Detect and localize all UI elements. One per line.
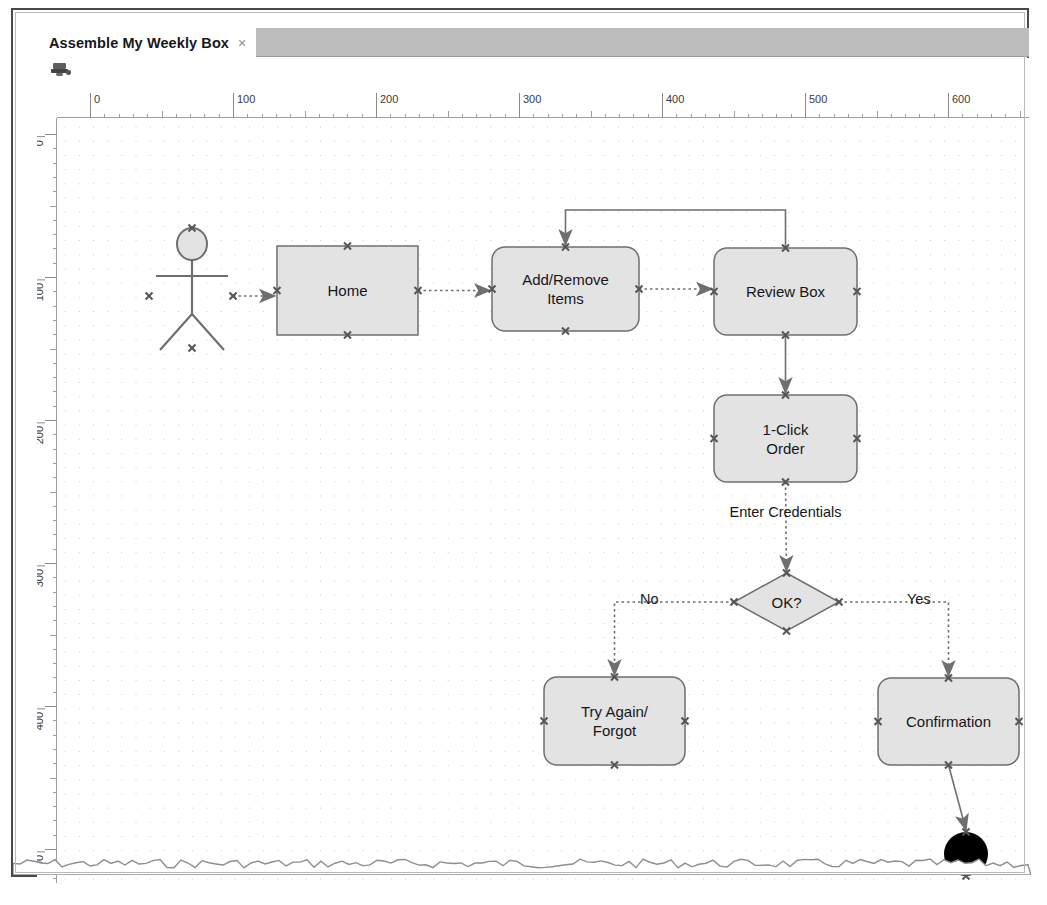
tab-strip: Assemble My Weekly Box × bbox=[37, 28, 1029, 57]
ruler-tick bbox=[50, 492, 57, 493]
ruler-label: 200 bbox=[37, 422, 45, 444]
ruler-tick bbox=[45, 420, 57, 421]
ruler-label: 300 bbox=[37, 565, 45, 587]
toolbar bbox=[37, 58, 1029, 84]
diagram-svg bbox=[57, 118, 1029, 883]
ruler-tick bbox=[591, 111, 592, 118]
diagram-node-actor[interactable] bbox=[156, 228, 228, 350]
close-icon[interactable]: × bbox=[238, 36, 246, 50]
ruler-tick bbox=[1020, 111, 1021, 118]
edge-confirmation-end[interactable] bbox=[949, 765, 967, 830]
ruler-tick bbox=[162, 111, 163, 118]
ruler-tick bbox=[45, 706, 57, 707]
ruler-tick bbox=[877, 111, 878, 118]
node-layer bbox=[156, 228, 1019, 876]
ruler-label: 300 bbox=[519, 93, 541, 106]
ruler-tick bbox=[50, 349, 57, 350]
diagram-node-confirmation[interactable] bbox=[878, 678, 1019, 765]
ruler-tick bbox=[45, 277, 57, 278]
ruler-tick bbox=[805, 106, 806, 118]
ruler-tick bbox=[45, 849, 57, 850]
diagram-node-end[interactable] bbox=[944, 832, 988, 876]
ruler-tick bbox=[305, 111, 306, 118]
diagram-node-try_again[interactable] bbox=[544, 677, 685, 765]
edge-review-box-add-remove-loop[interactable] bbox=[566, 210, 786, 248]
page-frame: Assemble My Weekly Box × 010020030040050… bbox=[11, 8, 1029, 877]
scanned-page: Assemble My Weekly Box × 010020030040050… bbox=[0, 0, 1047, 905]
horizontal-ruler[interactable]: 0100200300400500600 bbox=[57, 84, 1029, 118]
ruler-tick bbox=[50, 635, 57, 636]
diagram-node-add_remove[interactable] bbox=[492, 247, 639, 331]
edge-ok-yes-confirmation[interactable] bbox=[839, 602, 949, 676]
ruler-tick bbox=[376, 106, 377, 118]
ruler-label: 500 bbox=[805, 93, 827, 106]
diagram-node-ok_decision[interactable] bbox=[734, 573, 839, 631]
stamp-icon[interactable] bbox=[50, 62, 72, 78]
ruler-label: 400 bbox=[662, 93, 684, 106]
ruler-tick bbox=[519, 106, 520, 118]
ruler-tick bbox=[50, 778, 57, 779]
ruler-label: 100 bbox=[37, 279, 45, 301]
resize-handle[interactable] bbox=[189, 345, 196, 352]
diagram-node-one_click[interactable] bbox=[714, 395, 857, 482]
ruler-tick bbox=[50, 206, 57, 207]
tab-assemble-my-weekly-box[interactable]: Assemble My Weekly Box × bbox=[37, 28, 256, 57]
ruler-label: 100 bbox=[233, 93, 255, 106]
ruler-label: 0 bbox=[37, 136, 45, 146]
tab-title: Assemble My Weekly Box bbox=[49, 35, 229, 51]
ruler-tick bbox=[948, 106, 949, 118]
ruler-tick bbox=[233, 106, 234, 118]
ruler-label: 400 bbox=[37, 708, 45, 730]
ruler-label: 200 bbox=[376, 93, 398, 106]
edge-ok-no-try-again[interactable] bbox=[615, 602, 735, 675]
resize-handle[interactable] bbox=[146, 293, 153, 300]
ruler-tick bbox=[45, 134, 57, 135]
diagram-node-home[interactable] bbox=[277, 246, 418, 335]
ruler-tick bbox=[45, 563, 57, 564]
ruler-corner bbox=[37, 84, 57, 118]
diagram-node-review_box[interactable] bbox=[714, 248, 857, 335]
ruler-tick bbox=[90, 106, 91, 118]
diagram-canvas[interactable]: HomeAdd/Remove ItemsReview Box1-Click Or… bbox=[57, 118, 1029, 883]
ruler-tick bbox=[734, 111, 735, 118]
diagram-editor: 0100200300400500600 0100200300400500 Hom… bbox=[37, 84, 1029, 883]
ruler-label: 0 bbox=[90, 93, 100, 106]
edge-one-click-ok[interactable] bbox=[786, 482, 787, 571]
ruler-tick bbox=[448, 111, 449, 118]
ruler-tick bbox=[662, 106, 663, 118]
ruler-label: 500 bbox=[37, 851, 45, 873]
ruler-label: 600 bbox=[948, 93, 970, 106]
vertical-ruler[interactable]: 0100200300400500 bbox=[37, 118, 57, 883]
